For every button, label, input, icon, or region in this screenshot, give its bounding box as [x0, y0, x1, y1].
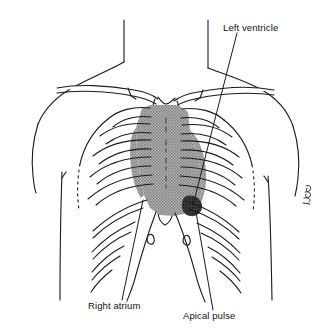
- anatomy-illustration: [0, 0, 331, 329]
- arm-outline-left: [32, 124, 38, 193]
- artist-signature: [303, 185, 311, 204]
- label-left-ventricle: Left ventricle: [223, 23, 278, 33]
- torso-flank-left: [60, 172, 62, 300]
- arm-outline-right: [293, 126, 299, 196]
- axilla-fold-right: [264, 176, 268, 182]
- costal-arch-right: [175, 213, 205, 302]
- anatomy-figure: Left ventricle Right atrium Apical pulse: [0, 0, 331, 329]
- axilla-fold-left: [62, 172, 66, 178]
- label-apical-pulse: Apical pulse: [183, 311, 235, 321]
- costal-foramen-left: [147, 234, 154, 244]
- label-right-atrium: Right atrium: [88, 301, 140, 311]
- torso-flank-right: [268, 176, 272, 300]
- suprasternal-notch: [158, 97, 175, 104]
